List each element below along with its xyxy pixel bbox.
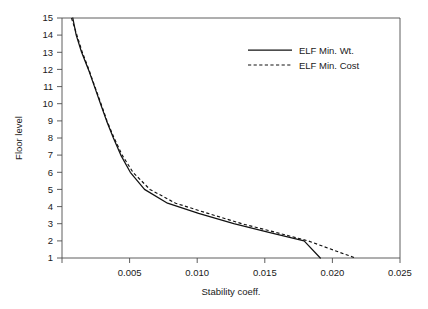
y-tick-label: 9	[48, 115, 53, 126]
legend-label-elf-min-cost: ELF Min. Cost	[299, 60, 360, 71]
chart-plot-area: 1 2 3 4 5 6 7 8 9 10 11 12 13 14 15	[0, 0, 428, 309]
x-tick-label: 0.005	[118, 267, 142, 278]
y-tick-label: 14	[42, 29, 53, 40]
chart-legend: ELF Min. Wt. ELF Min. Cost	[248, 45, 360, 71]
y-tick-label: 4	[48, 201, 53, 212]
series-line-elf-min-wt	[73, 18, 320, 258]
y-tick-labels: 1 2 3 4 5 6 7 8 9 10 11 12 13 14 15	[42, 12, 53, 263]
y-tick-label: 6	[48, 167, 53, 178]
y-tick-label: 3	[48, 218, 53, 229]
y-tick-label: 1	[48, 252, 53, 263]
chart-figure: 1 2 3 4 5 6 7 8 9 10 11 12 13 14 15	[0, 0, 428, 309]
y-tick-label: 2	[48, 235, 53, 246]
y-axis-ticks	[57, 18, 62, 258]
x-tick-label: 0.015	[253, 267, 277, 278]
x-tick-labels: 0.005 0.010 0.015 0.020 0.025	[118, 267, 412, 278]
y-tick-label: 10	[42, 98, 53, 109]
y-tick-label: 8	[48, 132, 53, 143]
x-axis-ticks	[62, 258, 400, 263]
y-tick-label: 11	[43, 81, 53, 92]
x-tick-label: 0.025	[388, 267, 412, 278]
x-tick-label: 0.020	[321, 267, 345, 278]
y-tick-label: 13	[42, 47, 53, 58]
y-tick-label: 7	[48, 149, 53, 160]
y-tick-label: 15	[42, 12, 53, 23]
x-axis-title: Stability coeff.	[202, 286, 261, 297]
legend-label-elf-min-wt: ELF Min. Wt.	[299, 45, 354, 56]
y-tick-label: 5	[48, 184, 53, 195]
x-tick-label: 0.010	[185, 267, 209, 278]
y-tick-label: 12	[42, 64, 53, 75]
y-axis-title: Floor level	[13, 116, 24, 160]
